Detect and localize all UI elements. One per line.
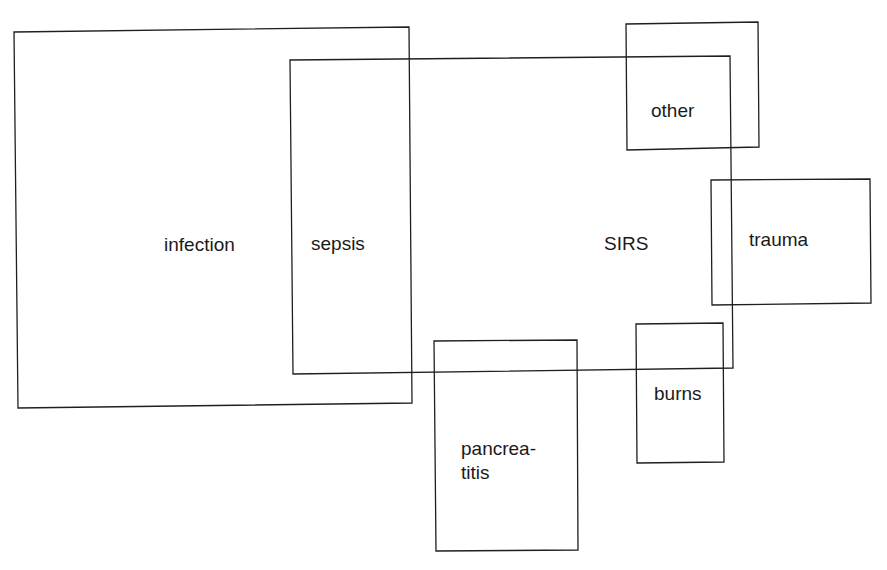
pancreatitis-label-line2: titis	[461, 462, 490, 483]
infection-box	[14, 27, 412, 408]
trauma-label: trauma	[749, 229, 809, 250]
pancreatitis-label-line1: pancrea-	[461, 438, 536, 459]
set-diagram: infection SIRS sepsis other trauma burns…	[0, 0, 887, 570]
sepsis-label: sepsis	[311, 233, 365, 254]
burns-label: burns	[654, 383, 702, 404]
other-box	[626, 22, 759, 150]
infection-label: infection	[164, 234, 235, 255]
sirs-label: SIRS	[604, 233, 648, 254]
other-label: other	[651, 100, 695, 121]
